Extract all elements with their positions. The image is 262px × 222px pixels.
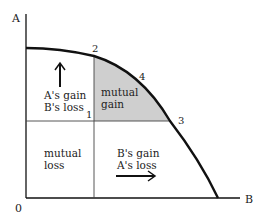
region-lower-left-line1: mutual xyxy=(44,147,82,159)
point-label-2: 2 xyxy=(92,43,98,54)
region-lower-right-line2: A's loss xyxy=(116,159,157,171)
x-axis-label: B xyxy=(245,193,253,206)
region-upper-left-line2: B's loss xyxy=(44,101,84,113)
point-label-1: 1 xyxy=(86,109,92,120)
right-arrow-icon xyxy=(116,171,155,181)
point-label-3: 3 xyxy=(178,115,184,126)
point-label-4: 4 xyxy=(139,71,145,82)
y-axis-label: A xyxy=(11,12,21,25)
region-upper-right-line1: mutual xyxy=(101,86,139,98)
origin-label: 0 xyxy=(15,202,22,215)
region-upper-left-line1: A's gain xyxy=(43,89,87,101)
region-lower-right-line1: B's gain xyxy=(117,147,160,159)
up-arrow-icon xyxy=(55,63,65,87)
region-upper-right-line2: gain xyxy=(101,98,124,110)
frontier-diagram: A B 0 1 2 3 4 A's gain B's loss mutual g… xyxy=(0,0,262,222)
region-lower-left-line2: loss xyxy=(44,159,64,171)
